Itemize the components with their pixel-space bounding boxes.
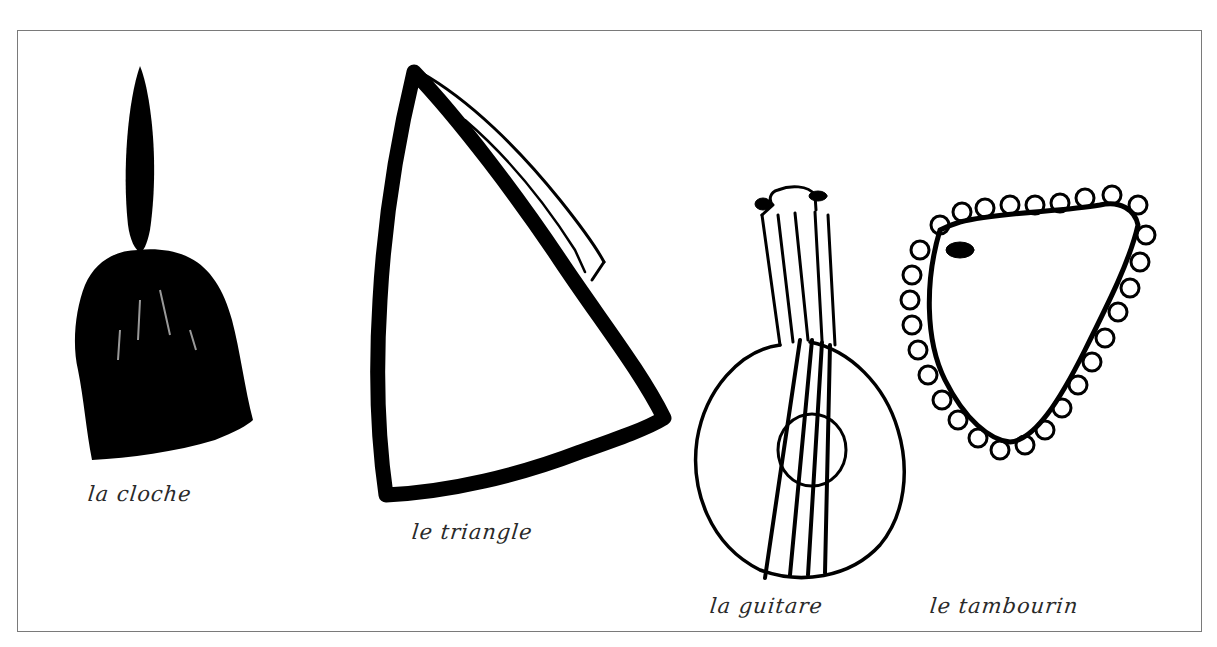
caption-guitar: la guitare <box>709 594 825 618</box>
guitar-drawing <box>696 187 905 578</box>
tambourine-drawing <box>901 186 1155 459</box>
caption-triangle: le triangle <box>411 520 534 544</box>
caption-tambourine: le tambourin <box>929 594 1080 618</box>
triangle-drawing <box>378 72 664 495</box>
bell-drawing <box>75 66 253 460</box>
instrument-drawings <box>0 0 1217 647</box>
caption-bell: la cloche <box>87 482 193 506</box>
